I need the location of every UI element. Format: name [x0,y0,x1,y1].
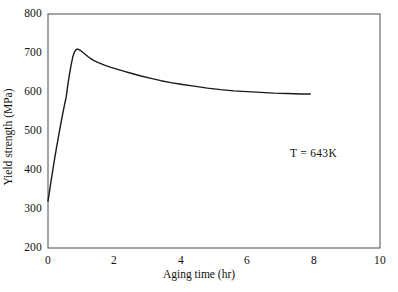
x-tick-label-0: 0 [45,255,51,267]
x-tick-label-10: 10 [374,255,386,267]
y-axis-title: Yield strength (MPa) [2,57,14,217]
y-tick-label-800: 800 [8,8,42,20]
plot-area [0,0,398,292]
x-tick-label-8: 8 [311,255,317,267]
y-tick-label-200: 200 [8,242,42,254]
x-tick-label-4: 4 [178,255,184,267]
x-axis-title: Aging time (hr) [0,268,398,280]
x-tick-label-2: 2 [111,255,117,267]
x-tick-label-6: 6 [244,255,250,267]
chart-figure: 800 700 600 500 400 300 200 0 2 4 6 8 10… [0,0,398,292]
plot-frame [48,14,380,248]
temperature-annotation: T = 643K [290,147,337,159]
